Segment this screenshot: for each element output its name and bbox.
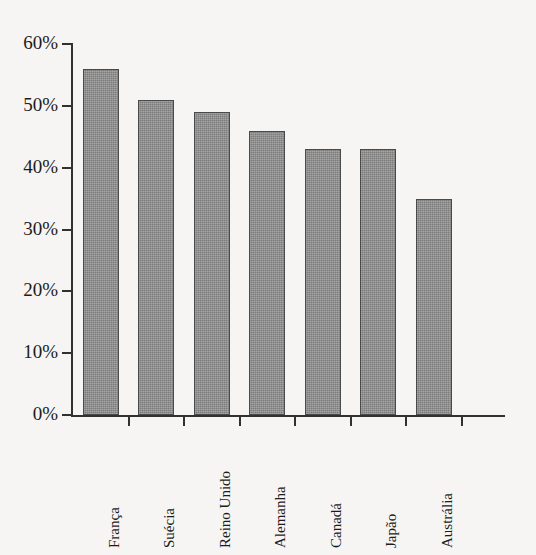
y-axis-tick-label-text: 10% [6, 342, 58, 361]
x-axis-tick [350, 417, 352, 426]
y-axis-tick [62, 290, 72, 292]
x-axis-tick [405, 417, 407, 426]
y-axis-tick [62, 105, 72, 107]
x-axis-category-label: Suécia [162, 508, 177, 548]
bar [138, 100, 174, 415]
y-axis-tick-label: 50% [0, 95, 58, 114]
bar [305, 149, 341, 415]
x-axis-category-label: Alemanha [273, 486, 288, 548]
x-axis-category-label: Canadá [329, 503, 344, 548]
bar [416, 199, 452, 415]
bar [249, 131, 285, 415]
y-axis-tick-label-text: 20% [6, 280, 58, 299]
x-axis-tick [128, 417, 130, 426]
y-axis-tick [62, 229, 72, 231]
y-axis-tick [62, 414, 72, 416]
bar [360, 149, 396, 415]
x-axis-category-label: França [107, 507, 122, 548]
y-axis-tick-label-text: 40% [6, 157, 58, 176]
x-axis-category-label: Reino Unido [218, 471, 233, 548]
y-axis-tick-label-text: 60% [6, 33, 58, 52]
y-axis-tick-label: 10% [0, 342, 58, 361]
y-axis-tick-label: 60% [0, 33, 58, 52]
y-axis-tick [62, 43, 72, 45]
y-axis-tick-label: 30% [0, 219, 58, 238]
x-axis-tick [294, 417, 296, 426]
x-axis-tick [239, 417, 241, 426]
x-axis-category-label: Japão [384, 514, 399, 548]
x-axis-category-label: Austrália [440, 493, 455, 548]
y-axis-tick-label: 40% [0, 157, 58, 176]
y-axis-tick-label: 20% [0, 280, 58, 299]
y-axis-tick [62, 352, 72, 354]
y-axis-tick-label-text: 30% [6, 219, 58, 238]
x-axis-tick [183, 417, 185, 426]
x-axis-tick [461, 417, 463, 426]
y-axis-tick [62, 167, 72, 169]
y-axis-tick-label-text: 0% [6, 404, 58, 423]
bar [83, 69, 119, 415]
y-axis-tick-label-text: 50% [6, 95, 58, 114]
bar [194, 112, 230, 415]
y-axis-tick-label: 0% [0, 404, 58, 423]
x-axis-line [71, 415, 505, 417]
bar-chart: 60%50%40%30%20%10%0% FrançaSuéciaReino U… [0, 0, 536, 555]
